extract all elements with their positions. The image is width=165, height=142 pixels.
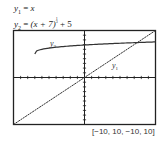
graph-screen: y2 y1: [0, 0, 165, 142]
window-range-label: [−10, 10, −10, 10]: [92, 127, 155, 136]
